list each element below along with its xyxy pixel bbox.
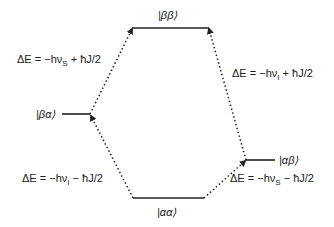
transition-ba-bb-label: ΔE = −hνS + ħJ/2: [17, 53, 101, 70]
eq-main: ΔE = −hν: [22, 172, 67, 184]
transition-aa-ba-label: ΔE = −hνI − ħJ/2: [22, 172, 103, 189]
eq-tail: + ħJ/2: [280, 67, 313, 79]
transition-ba-bb-arrow: [90, 29, 132, 114]
energy-level-diagram: |ββ⟩ |βα⟩ |αβ⟩ |αα⟩ ΔE = −hνS + ħJ/2 ΔE …: [0, 0, 334, 227]
level-bb-label: |ββ⟩: [158, 9, 177, 21]
eq-tail: − ħJ/2: [281, 172, 314, 184]
level-ba-label: |βα⟩: [36, 108, 55, 120]
eq-tail: − ħJ/2: [70, 172, 103, 184]
transition-ab-bb-label: ΔE = −hνI + ħJ/2: [232, 67, 313, 84]
level-aa-label: |αα⟩: [157, 206, 176, 218]
transition-ab-bb-arrow: [209, 29, 246, 160]
transition-aa-ab-label: ΔE = −hνS − ħJ/2: [230, 172, 314, 189]
eq-main: ΔE = −hν: [232, 67, 277, 79]
eq-main: ΔE = −hν: [17, 53, 62, 65]
eq-tail: + ħJ/2: [68, 53, 101, 65]
eq-main: ΔE = −hν: [230, 172, 275, 184]
level-ab-label: |αβ⟩: [279, 154, 298, 166]
